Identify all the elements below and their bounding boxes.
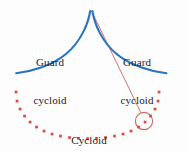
label-cycloid-text: Cycloid (58, 134, 120, 147)
label-guard-left-line2: cycloid (24, 94, 76, 107)
label-cycloid: Cycloid (58, 109, 120, 151)
cycloidal-pendulum-figure: Guard cycloid Guard cycloid Cycloid (0, 0, 187, 151)
label-guard-right-line1: Guard (110, 56, 164, 69)
label-guard-left-line1: Guard (24, 56, 76, 69)
label-guard-right-line2: cycloid (110, 94, 164, 107)
